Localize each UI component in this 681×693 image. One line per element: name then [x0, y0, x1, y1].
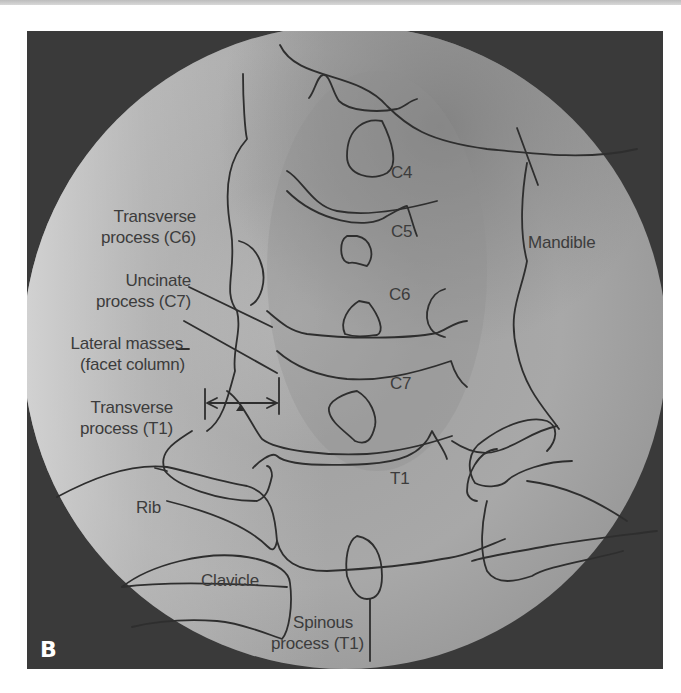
label-transverse-c6-line1: Transverse: [114, 207, 196, 227]
panel-letter: B: [40, 637, 57, 662]
label-transverse-t1-line1: Transverse: [91, 398, 173, 418]
label-uncinate-line2: process (C7): [96, 292, 191, 312]
label-spinous-line2: process (T1): [271, 634, 364, 654]
label-spinous-line1: Spinous: [293, 613, 353, 633]
top-rule: [0, 0, 681, 5]
label-mandible: Mandible: [528, 233, 595, 253]
label-lateral-masses-line1: Lateral masses: [71, 334, 183, 354]
label-rib: Rib: [136, 498, 161, 518]
label-lateral-masses-line2: (facet column): [80, 355, 185, 375]
label-c4: C4: [391, 163, 412, 183]
label-uncinate-line1: Uncinate: [126, 271, 192, 291]
label-transverse-t1-line2: process (T1): [80, 419, 173, 439]
label-c5: C5: [391, 222, 412, 242]
label-clavicle: Clavicle: [201, 571, 259, 591]
label-t1: T1: [390, 469, 409, 489]
label-transverse-c6-line2: process (C6): [101, 228, 196, 248]
label-c6: C6: [389, 285, 410, 305]
label-c7: C7: [390, 374, 411, 394]
